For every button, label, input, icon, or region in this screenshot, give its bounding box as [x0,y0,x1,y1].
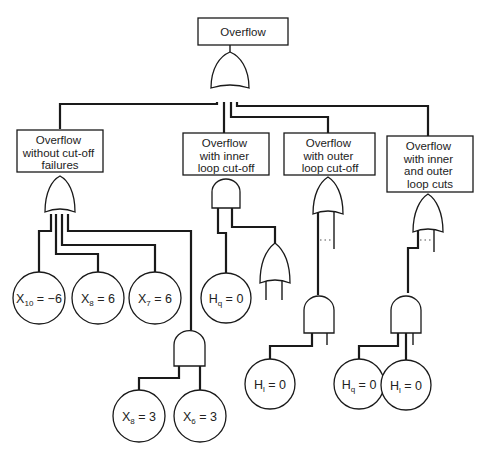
svg-text:Hl = 0: Hl = 0 [390,379,422,395]
event-line: loop cut-off [198,162,255,174]
event-line: failures [41,159,78,171]
basic-event-x10: X10 = −6 [13,272,65,324]
or-gate-icon [211,52,249,88]
event-line: without cut-off [22,147,95,159]
and-gate-icon [174,331,205,366]
top-event: Overflow [198,18,288,88]
branch-inner-outer-cuts: Overflow with inner and outer loop cuts … [334,136,473,410]
basic-event-hq-2: Hq = 0 [334,359,384,409]
svg-text:Hq = 0: Hq = 0 [209,292,244,308]
svg-text:Overflow with inner: Overflow with inner and outer loop cuts [403,140,456,190]
event-line: with outer [302,150,353,162]
svg-text:X8 = 3: X8 = 3 [122,410,156,426]
svg-text:Overflow with inner: Overflow with inner loop cut-off [198,137,255,174]
and-gate-icon [304,296,334,333]
event-line: Overflow [202,137,248,149]
basic-event-hq: Hq = 0 [201,273,251,323]
event-line: Overflow [406,140,452,152]
connector-lines [39,45,434,391]
and-gate-icon [391,296,421,333]
event-line: with inner [403,153,453,165]
basic-event-hl-2: Hl = 0 [381,360,431,410]
event-line: Overflow [36,134,82,146]
basic-event-x8-3: X8 = 3 [113,390,165,442]
event-line: and outer [404,165,453,177]
or-gate-icon [413,194,443,232]
fault-tree-diagram: Overflow Overflow without cut-off failur… [0,0,489,459]
basic-event-x6-3: X6 = 3 [174,390,226,442]
branch-without-cutoff: Overflow without cut-off failures X10 = … [13,130,226,442]
svg-text:X10 = −6: X10 = −6 [16,292,62,308]
or-gate-icon [260,243,290,283]
top-event-label: Overflow [220,26,266,38]
or-gate-icon [45,176,75,212]
svg-text:X7 = 6: X7 = 6 [138,292,172,308]
or-gate-icon [313,177,343,214]
svg-text:X8 = 6: X8 = 6 [81,292,115,308]
svg-text:X6 = 3: X6 = 3 [183,410,217,426]
event-line: loop cuts [407,178,453,190]
event-line: with inner [199,150,249,162]
and-gate-icon [212,179,240,208]
svg-text:Hl = 0: Hl = 0 [254,378,286,394]
svg-text:Hq = 0: Hq = 0 [342,378,377,394]
basic-event-x7: X7 = 6 [129,272,181,324]
svg-text:Overflow with outer: Overflow with outer loop cut-off [302,137,359,174]
event-line: loop cut-off [302,162,359,174]
event-line: Overflow [306,137,352,149]
basic-event-x8: X8 = 6 [72,272,124,324]
basic-event-hl: Hl = 0 [245,359,295,409]
